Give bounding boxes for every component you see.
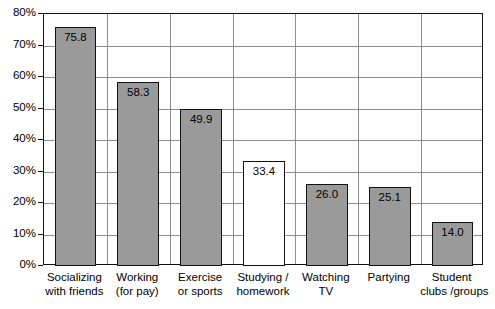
gridline-h-50 (44, 109, 482, 110)
x-axis-category-label-5: Partying (357, 270, 420, 284)
bar-1: 58.3 (117, 82, 159, 266)
x-axis-category-label-line: (for pay) (106, 284, 169, 298)
y-axis-tick-label-50: 50% (0, 102, 36, 114)
bar-value-label-3: 33.4 (244, 165, 284, 177)
gridline-v-6 (421, 14, 422, 264)
gridline-v-1 (107, 14, 108, 264)
x-axis-category-label-line: clubs /groups (420, 284, 483, 298)
y-axis-tick-label-0: 0% (0, 259, 36, 271)
bar-2: 49.9 (180, 109, 222, 266)
gridline-h-60 (44, 77, 482, 78)
x-axis-category-label-6: Studentclubs /groups (420, 270, 483, 298)
bar-0: 75.8 (55, 27, 97, 266)
gridline-v-3 (233, 14, 234, 264)
bar-value-label-2: 49.9 (181, 113, 221, 125)
bar-value-label-5: 25.1 (370, 191, 410, 203)
y-axis-tick-mark-0 (38, 265, 43, 266)
bar-4: 26.0 (306, 184, 348, 266)
bar-5: 25.1 (369, 187, 411, 266)
y-axis-tick-label-40: 40% (0, 133, 36, 145)
x-axis-category-label-line: with friends (43, 284, 106, 298)
gridline-v-5 (358, 14, 359, 264)
gridline-v-2 (170, 14, 171, 264)
bar-value-label-6: 14.0 (433, 226, 473, 238)
x-axis-category-label-line: Socializing (43, 270, 106, 284)
x-axis-category-label-3: Studying /homework (232, 270, 295, 298)
bar-6: 14.0 (432, 222, 474, 266)
x-axis-category-label-line: Studying / (232, 270, 295, 284)
y-axis-tick-label-20: 20% (0, 196, 36, 208)
x-axis-category-label-line: Student (420, 270, 483, 284)
gridline-h-70 (44, 46, 482, 47)
bar-chart: 0%10%20%30%40%50%60%70%80% 75.858.349.93… (0, 0, 495, 309)
y-axis-tick-label-70: 70% (0, 39, 36, 51)
x-axis-category-label-line: Working (106, 270, 169, 284)
x-axis-category-label-2: Exerciseor sports (169, 270, 232, 298)
x-axis-category-label-line: Partying (357, 270, 420, 284)
gridline-h-40 (44, 140, 482, 141)
x-axis-category-label-line: Exercise (169, 270, 232, 284)
x-axis-category-label-0: Socializingwith friends (43, 270, 106, 298)
x-axis-category-label-1: Working(for pay) (106, 270, 169, 298)
gridline-v-4 (295, 14, 296, 264)
y-axis-tick-label-10: 10% (0, 228, 36, 240)
y-axis-tick-label-80: 80% (0, 7, 36, 19)
y-axis-tick-label-30: 30% (0, 165, 36, 177)
y-axis-tick-label-60: 60% (0, 70, 36, 82)
bar-value-label-1: 58.3 (118, 86, 158, 98)
x-axis-category-label-4: WatchingTV (294, 270, 357, 298)
bar-value-label-0: 75.8 (56, 31, 96, 43)
x-axis-category-label-line: or sports (169, 284, 232, 298)
x-axis-category-label-line: Watching (294, 270, 357, 284)
bar-value-label-4: 26.0 (307, 188, 347, 200)
x-axis-category-label-line: homework (232, 284, 295, 298)
plot-area: 75.858.349.933.426.025.114.0 (43, 13, 483, 265)
x-axis-category-label-line: TV (294, 284, 357, 298)
bar-3: 33.4 (243, 161, 285, 266)
